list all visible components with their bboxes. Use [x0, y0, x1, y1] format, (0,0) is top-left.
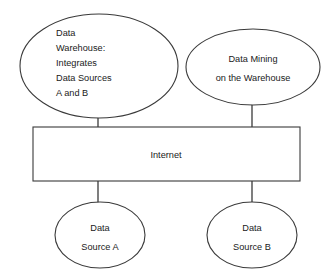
internet-label: Internet: [150, 150, 182, 160]
node-data-source-b[interactable]: Data Source B: [207, 202, 297, 268]
data-source-a-label-line-2: Source A: [81, 242, 119, 252]
data-warehouse-ellipse: [20, 14, 178, 118]
node-internet[interactable]: Internet: [33, 127, 300, 181]
diagram-canvas: Data Warehouse: Integrates Data Sources …: [0, 0, 335, 280]
data-warehouse-label-line-4: Data Sources: [56, 73, 112, 83]
data-source-b-ellipse: [207, 202, 297, 268]
node-data-mining[interactable]: Data Mining on the Warehouse: [186, 29, 320, 105]
data-source-b-label-line-2: Source B: [233, 242, 271, 252]
data-warehouse-label-line-3: Integrates: [56, 58, 97, 68]
data-warehouse-label-line-2: Warehouse:: [56, 43, 105, 53]
node-data-source-a[interactable]: Data Source A: [55, 202, 145, 268]
diagram-svg: Data Warehouse: Integrates Data Sources …: [0, 0, 335, 280]
data-mining-label-line-2: on the Warehouse: [216, 73, 291, 83]
data-mining-label-line-1: Data Mining: [228, 54, 277, 64]
data-source-a-ellipse: [55, 202, 145, 268]
data-source-b-label-line-1: Data: [242, 223, 262, 233]
data-warehouse-label-line-1: Data: [56, 28, 76, 38]
data-source-a-label-line-1: Data: [90, 223, 110, 233]
data-mining-ellipse: [186, 29, 320, 105]
node-data-warehouse[interactable]: Data Warehouse: Integrates Data Sources …: [20, 14, 178, 118]
data-warehouse-label-line-5: A and B: [56, 88, 88, 98]
